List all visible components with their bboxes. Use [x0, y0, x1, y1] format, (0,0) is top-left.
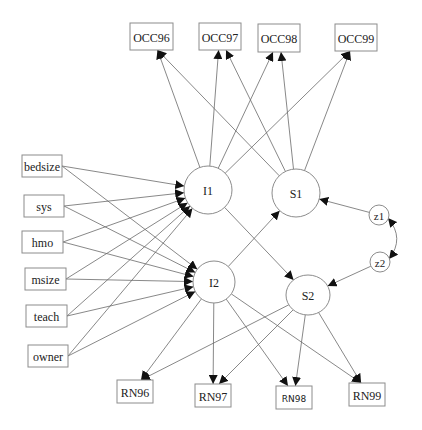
path-i1-to-s2 — [225, 207, 294, 280]
node-label: OCC97 — [202, 31, 239, 45]
path-i2-to-rn98 — [226, 299, 288, 386]
observed-variable-rn96[interactable]: RN96 — [117, 380, 153, 403]
node-label: S1 — [290, 187, 303, 201]
path-s1-to-occ99 — [305, 51, 351, 171]
node-label: OCC98 — [261, 32, 298, 46]
node-label: RN99 — [353, 389, 382, 403]
path-i1-to-occ96 — [158, 50, 200, 167]
path-sys-to-i2 — [64, 206, 195, 273]
node-label: hmo — [32, 236, 53, 250]
path-sys-to-i1 — [64, 193, 184, 206]
node-label: z2 — [375, 257, 385, 269]
node-label: OCC99 — [338, 32, 375, 46]
latent-factor-i2[interactable]: I2 — [193, 261, 235, 303]
observed-variable-sys[interactable]: sys — [24, 195, 64, 217]
node-label: teach — [34, 310, 59, 324]
latent-factor-i1[interactable]: I1 — [184, 166, 232, 214]
path-teach-to-i2 — [67, 287, 194, 316]
node-label: RN96 — [121, 386, 150, 400]
observed-variable-rn99[interactable]: RN99 — [349, 383, 385, 406]
latent-factor-s1[interactable]: S1 — [272, 169, 320, 217]
node-label: RN98 — [282, 394, 307, 404]
path-msize-to-i2 — [66, 279, 193, 282]
path-z2-to-s2 — [328, 266, 371, 286]
node-label: I2 — [209, 276, 219, 290]
path-z1-to-s1 — [319, 199, 369, 212]
observed-variable-hmo[interactable]: hmo — [22, 231, 63, 253]
path-i1-to-occ98 — [218, 52, 273, 168]
observed-variable-occ98[interactable]: OCC98 — [258, 24, 300, 52]
path-msize-to-i1 — [66, 203, 188, 279]
covariance-z1-z2 — [388, 218, 397, 259]
path-s1-to-occ96 — [158, 50, 280, 176]
path-s2-to-rn98 — [295, 315, 305, 386]
path-teach-to-i1 — [67, 206, 190, 316]
observed-variable-occ96[interactable]: OCC96 — [130, 23, 173, 50]
path-s1-to-occ97 — [226, 50, 285, 171]
observed-variable-occ99[interactable]: OCC99 — [335, 24, 377, 51]
node-label: bedsize — [24, 160, 60, 174]
node-label: sys — [36, 200, 52, 214]
path-s2-to-rn99 — [319, 313, 362, 384]
observed-variable-bedsize[interactable]: bedsize — [22, 155, 62, 177]
disturbance-z1[interactable]: z1 — [369, 205, 389, 225]
node-label: msize — [32, 273, 60, 287]
observed-variable-teach[interactable]: teach — [26, 305, 67, 327]
node-label: RN97 — [199, 390, 228, 404]
path-s2-to-rn96 — [141, 305, 289, 380]
observed-variable-msize[interactable]: msize — [25, 268, 66, 290]
node-label: owner — [33, 350, 63, 364]
observed-variable-owner[interactable]: owner — [28, 345, 68, 367]
observed-variable-occ97[interactable]: OCC97 — [199, 23, 241, 50]
latent-factor-s2[interactable]: S2 — [286, 275, 330, 315]
node-label: I1 — [203, 184, 213, 198]
path-i2-to-rn96 — [141, 299, 202, 380]
node-label: z1 — [374, 210, 384, 222]
node-label: S2 — [302, 289, 315, 303]
path-hmo-to-i1 — [63, 198, 185, 242]
path-owner-to-i1 — [68, 208, 193, 356]
edges-layer — [62, 50, 371, 386]
observed-variable-rn97[interactable]: RN97 — [195, 384, 231, 407]
path-s1-to-occ98 — [281, 52, 294, 169]
path-s2-to-rn97 — [219, 310, 293, 384]
path-bedsize-to-i1 — [62, 166, 184, 186]
disturbance-z2[interactable]: z2 — [370, 252, 390, 272]
path-hmo-to-i2 — [63, 242, 194, 277]
sem-path-diagram: OCC96OCC97OCC98OCC99bedsizesyshmomsizete… — [0, 0, 422, 430]
observed-variable-rn98[interactable]: RN98 — [276, 386, 312, 409]
node-label: OCC96 — [133, 31, 170, 45]
covariance-layer — [388, 218, 397, 259]
